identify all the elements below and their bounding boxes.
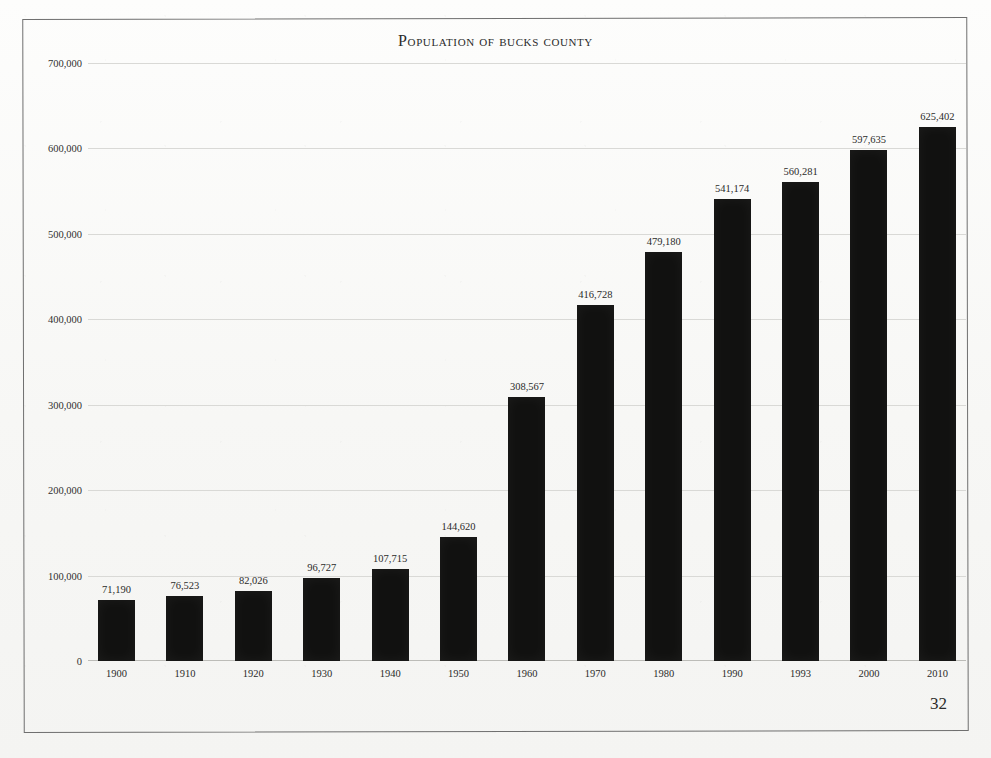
bar: [303, 578, 340, 661]
bar: [577, 305, 614, 661]
bar-value-label: 625,402: [920, 111, 954, 122]
bar-column: 416,728: [577, 63, 614, 661]
x-axis-tick-label: 1940: [372, 668, 409, 679]
bar-value-label: 597,635: [852, 134, 886, 145]
bar-value-label: 541,174: [715, 183, 749, 194]
x-axis-tick-label: 2000: [850, 668, 887, 679]
bar: [508, 397, 545, 661]
bar-column: 144,620: [440, 63, 477, 661]
bar: [782, 182, 819, 661]
x-axis-tick-label: 1990: [714, 668, 751, 679]
y-axis-tick-label: 400,000: [8, 314, 82, 325]
bar: [372, 569, 409, 661]
bar-column: 76,523: [166, 63, 203, 661]
bar-column: 479,180: [645, 63, 682, 661]
bar-value-label: 416,728: [578, 289, 612, 300]
y-axis-tick-label: 100,000: [8, 570, 82, 581]
y-axis-tick-labels: 0100,000200,000300,000400,000500,000600,…: [0, 63, 82, 661]
bar-value-label: 71,190: [102, 584, 131, 595]
bar-column: 71,190: [98, 63, 135, 661]
x-axis-tick-label: 1970: [577, 668, 614, 679]
x-axis-tick-labels: 1900191019201930194019501960197019801990…: [88, 668, 966, 679]
page-number: 32: [930, 694, 947, 714]
bar-value-label: 107,715: [373, 553, 407, 564]
x-axis-tick-label: 1930: [303, 668, 340, 679]
y-axis-tick-label: 700,000: [8, 58, 82, 69]
bar: [235, 591, 272, 661]
y-axis-tick-label: 0: [8, 656, 82, 667]
bar: [440, 537, 477, 661]
bar-value-label: 82,026: [239, 575, 268, 586]
bar-column: 308,567: [508, 63, 545, 661]
y-axis-tick-label: 300,000: [8, 399, 82, 410]
y-axis-tick-label: 600,000: [8, 143, 82, 154]
x-axis-tick-label: 1960: [508, 668, 545, 679]
bar: [850, 150, 887, 661]
bar: [919, 127, 956, 661]
bar-column: 560,281: [782, 63, 819, 661]
bar-column: 541,174: [714, 63, 751, 661]
bar-column: 597,635: [850, 63, 887, 661]
bar: [166, 596, 203, 661]
y-axis-tick-label: 200,000: [8, 485, 82, 496]
bar: [98, 600, 135, 661]
bar-column: 625,402: [919, 63, 956, 661]
bar-value-label: 144,620: [441, 521, 475, 532]
bar: [645, 252, 682, 661]
chart-title: Population of Bucks County: [0, 32, 991, 50]
bar-column: 107,715: [372, 63, 409, 661]
bar-value-label: 479,180: [647, 236, 681, 247]
chart-plot-area: 71,19076,52382,02696,727107,715144,62030…: [88, 63, 966, 661]
x-axis-tick-label: 1980: [645, 668, 682, 679]
x-axis-tick-label: 1950: [440, 668, 477, 679]
x-axis-tick-label: 1910: [166, 668, 203, 679]
bar-series: 71,19076,52382,02696,727107,715144,62030…: [88, 63, 966, 661]
x-axis-tick-label: 1920: [235, 668, 272, 679]
bar-column: 82,026: [235, 63, 272, 661]
bar-value-label: 560,281: [784, 166, 818, 177]
x-axis-tick-label: 2010: [919, 668, 956, 679]
bar-value-label: 308,567: [510, 381, 544, 392]
bar-value-label: 76,523: [170, 580, 199, 591]
bar-column: 96,727: [303, 63, 340, 661]
x-axis-tick-label: 1993: [782, 668, 819, 679]
bar: [714, 199, 751, 661]
y-axis-tick-label: 500,000: [8, 228, 82, 239]
x-axis-tick-label: 1900: [98, 668, 135, 679]
bar-value-label: 96,727: [307, 562, 336, 573]
